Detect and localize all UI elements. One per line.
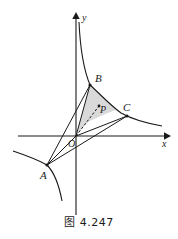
point-label-c: C	[123, 102, 130, 113]
origin-label: O	[68, 139, 75, 149]
point-label-b: B	[95, 73, 102, 84]
point-B-marker	[88, 83, 91, 86]
point-A-marker	[45, 163, 48, 166]
figure-container: y x O A B C P 图 4.247	[0, 0, 178, 239]
point-C-marker	[125, 114, 128, 117]
hyperbola-lower-branch	[13, 151, 62, 201]
geometry-diagram	[0, 0, 178, 239]
segment-A-C	[47, 116, 127, 165]
point-label-p: P	[100, 105, 106, 115]
y-axis-arrow-icon	[72, 12, 79, 19]
x-axis-label: x	[162, 139, 166, 149]
y-axis-label: y	[82, 13, 86, 23]
figure-caption: 图 4.247	[0, 213, 178, 229]
point-label-a: A	[40, 170, 47, 181]
